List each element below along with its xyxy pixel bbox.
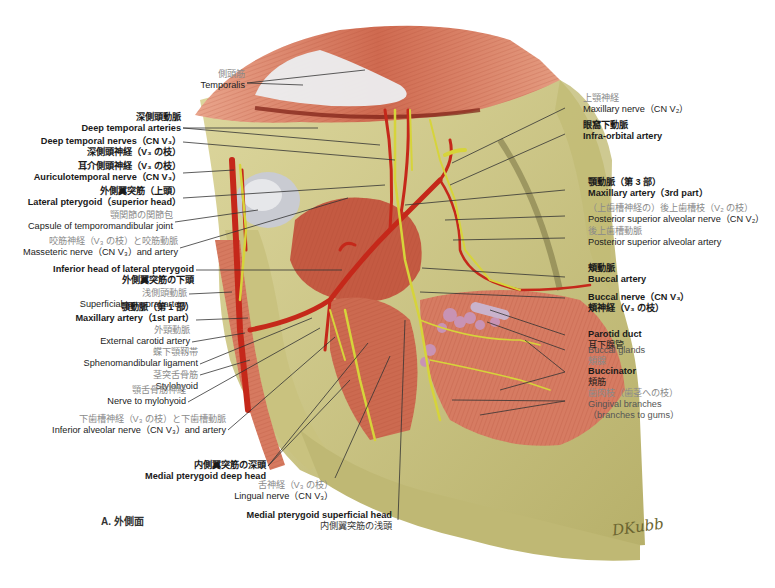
label-external-carotid: 外頸動脈 External carotid artery xyxy=(40,325,190,347)
label-auriculotemporal-nerve-jp: 耳介側頭神経（V₃ の枝） xyxy=(20,161,181,172)
label-gingival-branches-en: Gingival branches xyxy=(588,399,679,410)
label-masseteric-nerve-artery-jp: 咬筋神経（V₃ の枝）と咬筋動脈 xyxy=(10,236,178,247)
label-lateral-pterygoid-inferior-en: Inferior head of lateral pterygoid xyxy=(10,264,194,275)
label-inferior-alveolar-en: Inferior alveolar nerve（CN V₃）and artery xyxy=(30,425,226,436)
label-parotid-duct-en: Parotid duct xyxy=(588,329,642,340)
label-posterior-superior-alveolar-nerve-en: Posterior superior alveolar nerve（CN V₂） xyxy=(588,214,764,225)
label-external-carotid-en: External carotid artery xyxy=(40,336,190,347)
label-infraorbital-artery: 眼窩下動脈 Infra-orbital artery xyxy=(583,120,662,142)
label-gingival-branches: 歯肉枝（歯茎への枝） Gingival branches （branches t… xyxy=(588,388,679,421)
label-nerve-to-mylohyoid: 顎舌骨筋神経 Nerve to mylohyoid xyxy=(40,385,186,407)
label-superficial-temporal-artery-jp: 浅側頭動脈 xyxy=(0,288,187,299)
label-maxillary-artery-3rd: 顎動脈（第 3 部） Maxillary artery（3rd part） xyxy=(588,177,708,199)
label-lateral-pterygoid-superior-en: Lateral pterygoid（superior head） xyxy=(10,197,181,208)
label-deep-temporal-nerves-jp: 深側頭神経（V₃ の枝） xyxy=(20,147,181,158)
label-sphenomandibular-ligament: 蝶下顎靱帯 Sphenomandibular ligament xyxy=(40,347,198,369)
label-buccal-nerve-jp: 頬神経（V₃ の枝） xyxy=(588,303,689,314)
label-buccal-artery-en: Buccal artery xyxy=(588,274,646,285)
label-inferior-alveolar-jp: 下歯槽神経（V₃ の枝）と下歯槽動脈 xyxy=(30,414,226,425)
label-masseteric-nerve-artery-en: Masseteric nerve（CN V₃）and artery xyxy=(10,247,178,258)
label-lingual-nerve-en: Lingual nerve（CN V₃） xyxy=(120,491,333,502)
label-deep-temporal-nerves: Deep temporal nerves（CN V₃） 深側頭神経（V₃ の枝） xyxy=(20,136,181,158)
label-lateral-pterygoid-inferior: Inferior head of lateral pterygoid 外側翼突筋… xyxy=(10,264,194,286)
label-buccinator-en: Buccinator xyxy=(588,366,636,377)
label-tmj-capsule-jp: 顎関節の関節包 xyxy=(10,210,173,221)
label-tmj-capsule: 顎関節の関節包 Capsule of temporomandibular joi… xyxy=(10,210,173,232)
label-buccal-nerve-en: Buccal nerve（CN V₃） xyxy=(588,292,689,303)
label-lingual-nerve-jp: 舌神経（V₃ の枝） xyxy=(120,480,333,491)
label-medial-pterygoid-superficial-jp: 内側翼突筋の浅頭 xyxy=(230,521,392,532)
label-maxillary-artery-3rd-en: Maxillary artery（3rd part） xyxy=(588,188,708,199)
label-auriculotemporal-nerve-en: Auriculotemporal nerve（CN V₃） xyxy=(20,172,181,183)
label-temporalis: 側頭筋 Temporalis xyxy=(125,69,245,91)
label-maxillary-artery-1st-jp: 顎動脈（第 1 部） xyxy=(40,302,194,313)
label-sphenomandibular-ligament-jp: 蝶下顎靱帯 xyxy=(40,347,198,358)
label-medial-pterygoid-deep-jp: 内側翼突筋の深頭 xyxy=(40,460,266,471)
label-buccal-nerve: Buccal nerve（CN V₃） 頬神経（V₃ の枝） xyxy=(588,292,689,314)
label-posterior-superior-alveolar-nerve-jp: （上歯槽神経の）後上歯槽枝（V₂ の枝） xyxy=(588,203,764,214)
label-sphenomandibular-ligament-en: Sphenomandibular ligament xyxy=(40,358,198,369)
label-stylohyoid-jp: 茎突舌骨筋 xyxy=(40,370,198,381)
figure-caption: A. 外側面 xyxy=(101,513,144,528)
label-external-carotid-jp: 外頸動脈 xyxy=(40,325,190,336)
label-nerve-to-mylohyoid-en: Nerve to mylohyoid xyxy=(40,396,186,407)
label-maxillary-nerve-jp: 上顎神経 xyxy=(583,93,688,104)
label-masseteric-nerve-artery: 咬筋神経（V₃ の枝）と咬筋動脈 Masseteric nerve（CN V₃）… xyxy=(10,236,178,258)
label-posterior-superior-alveolar-artery-en: Posterior superior alveolar artery xyxy=(588,237,721,248)
label-lateral-pterygoid-superior-jp: 外側翼突筋（上頭） xyxy=(10,186,181,197)
label-infraorbital-artery-jp: 眼窩下動脈 xyxy=(583,120,662,131)
label-medial-pterygoid-superficial-en: Medial pterygoid superficial head xyxy=(230,510,392,521)
label-maxillary-nerve-en: Maxillary nerve（CN V₂） xyxy=(583,104,688,115)
label-posterior-superior-alveolar-artery: 後上歯槽動脈 Posterior superior alveolar arter… xyxy=(588,226,721,248)
label-nerve-to-mylohyoid-jp: 顎舌骨筋神経 xyxy=(40,385,186,396)
label-buccal-artery-jp: 頬動脈 xyxy=(588,263,646,274)
label-buccinator-jp: 頬筋 xyxy=(588,377,636,388)
label-lingual-nerve: 舌神経（V₃ の枝） Lingual nerve（CN V₃） xyxy=(120,480,333,502)
label-buccal-glands-en: Buccal glands xyxy=(588,345,645,356)
label-lateral-pterygoid-superior: 外側翼突筋（上頭） Lateral pterygoid（superior hea… xyxy=(10,186,181,208)
label-temporalis-en: Temporalis xyxy=(125,80,245,91)
label-gingival-branches-jp: 歯肉枝（歯茎への枝） xyxy=(588,388,679,399)
label-deep-temporal-nerves-en: Deep temporal nerves（CN V₃） xyxy=(20,136,181,147)
label-temporalis-jp: 側頭筋 xyxy=(125,69,245,80)
label-deep-temporal-arteries-en: Deep temporal arteries xyxy=(20,123,181,134)
label-buccinator: Buccinator 頬筋 xyxy=(588,366,636,388)
label-infraorbital-artery-en: Infra-orbital artery xyxy=(583,131,662,142)
label-medial-pterygoid-deep: 内側翼突筋の深頭 Medial pterygoid deep head xyxy=(40,460,266,482)
label-lateral-pterygoid-inferior-jp: 外側翼突筋の下頭 xyxy=(10,275,194,286)
label-maxillary-artery-1st: 顎動脈（第 1 部） Maxillary artery（1st part） xyxy=(40,302,194,324)
label-posterior-superior-alveolar-nerve: （上歯槽神経の）後上歯槽枝（V₂ の枝） Posterior superior … xyxy=(588,203,764,225)
label-buccal-artery: 頬動脈 Buccal artery xyxy=(588,263,646,285)
label-maxillary-artery-3rd-jp: 顎動脈（第 3 部） xyxy=(588,177,708,188)
label-inferior-alveolar: 下歯槽神経（V₃ の枝）と下歯槽動脈 Inferior alveolar ner… xyxy=(30,414,226,436)
label-posterior-superior-alveolar-artery-jp: 後上歯槽動脈 xyxy=(588,226,721,237)
label-medial-pterygoid-superficial: Medial pterygoid superficial head 内側翼突筋の… xyxy=(230,510,392,532)
label-maxillary-nerve: 上顎神経 Maxillary nerve（CN V₂） xyxy=(583,93,688,115)
label-gingival-branches-en2: （branches to gums） xyxy=(588,410,679,421)
label-deep-temporal-arteries-jp: 深側頭動脈 xyxy=(20,112,181,123)
label-auriculotemporal-nerve: 耳介側頭神経（V₃ の枝） Auriculotemporal nerve（CN … xyxy=(20,161,181,183)
label-buccal-glands: Buccal glands 頬腺 xyxy=(588,345,645,367)
label-tmj-capsule-en: Capsule of temporomandibular joint xyxy=(10,221,173,232)
label-deep-temporal-arteries: 深側頭動脈 Deep temporal arteries xyxy=(20,112,181,134)
label-maxillary-artery-1st-en: Maxillary artery（1st part） xyxy=(40,313,194,324)
